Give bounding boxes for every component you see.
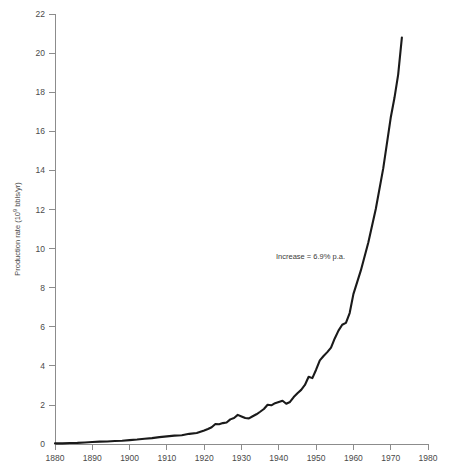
x-tick-label: 1880 (46, 453, 65, 463)
y-tick-label: 10 (36, 244, 46, 254)
y-tick-label: 22 (36, 9, 46, 19)
x-tick-label: 1910 (157, 453, 176, 463)
y-tick-label: 12 (36, 205, 46, 215)
y-tick-label: 6 (40, 322, 45, 332)
x-tick-label: 1900 (120, 453, 139, 463)
x-tick-label: 1920 (195, 453, 214, 463)
y-tick-label: 8 (40, 283, 45, 293)
y-tick-label: 0 (40, 439, 45, 449)
y-tick-label: 14 (36, 165, 46, 175)
growth-rate-annotation: Increase = 6.9% p.a. (276, 252, 345, 261)
production-rate-curve (55, 37, 402, 443)
production-rate-line-chart: 22 20 18 16 14 12 10 8 6 4 2 0 (0, 0, 450, 476)
x-tick-label: 1940 (269, 453, 288, 463)
y-tick-label: 18 (36, 87, 46, 97)
y-axis-ticks: 22 20 18 16 14 12 10 8 6 4 2 0 (36, 9, 55, 449)
x-tick-label: 1980 (419, 453, 438, 463)
y-tick-label: 2 (40, 400, 45, 410)
y-tick-label: 20 (36, 48, 46, 58)
y-tick-label: 4 (40, 361, 45, 371)
y-axis-title: Production rate (109 bbls/yr) (12, 182, 22, 276)
y-axis-title-prefix: Production rate (10 (13, 212, 22, 276)
chart-figure: 22 20 18 16 14 12 10 8 6 4 2 0 (0, 0, 450, 476)
x-tick-label: 1890 (83, 453, 102, 463)
x-tick-label: 1960 (344, 453, 363, 463)
x-tick-label: 1970 (381, 453, 400, 463)
y-tick-label: 16 (36, 126, 46, 136)
y-axis-title-suffix: bbls/yr) (13, 182, 22, 209)
x-axis-ticks: 1880 1890 1900 1910 1920 1930 1940 1950 … (46, 444, 438, 463)
x-tick-label: 1950 (307, 453, 326, 463)
x-tick-label: 1930 (232, 453, 251, 463)
